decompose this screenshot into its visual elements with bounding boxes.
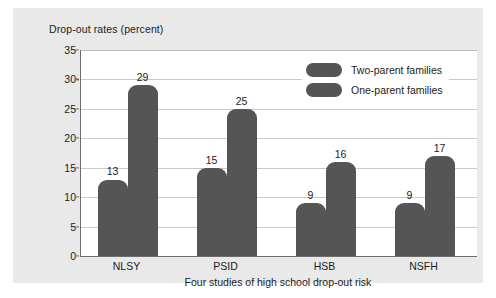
bar <box>296 203 326 256</box>
figure-card: Drop-out rates (percent) 05101520253035 … <box>13 8 483 283</box>
y-tick-label: 15 <box>50 162 76 174</box>
bar-value-label: 15 <box>206 154 218 166</box>
legend-label-two-parent: Two-parent families <box>351 64 442 76</box>
bar <box>128 85 158 256</box>
y-tick-label: 0 <box>50 250 76 262</box>
y-tick-label: 10 <box>50 191 76 203</box>
x-category-label: NLSY <box>113 260 140 272</box>
gridline <box>81 50 477 51</box>
y-tick-mark <box>75 226 79 227</box>
chart-legend: Two-parent families One-parent families <box>302 57 449 104</box>
y-tick-label: 35 <box>50 44 76 56</box>
bar-value-label: 13 <box>107 165 119 177</box>
y-tick-mark <box>75 167 79 168</box>
x-category-label: NSFH <box>409 260 438 272</box>
legend-swatch-two-parent-icon <box>306 63 342 77</box>
bar-value-label: 16 <box>335 148 347 160</box>
y-tick-mark <box>75 197 79 198</box>
bar <box>197 168 227 256</box>
plot-area: 13291525916917 Two-parent families One-p… <box>80 50 477 257</box>
y-tick-label: 30 <box>50 73 76 85</box>
bar <box>395 203 425 256</box>
x-category-label: HSB <box>314 260 336 272</box>
bar <box>425 156 455 256</box>
y-tick-mark <box>75 49 79 50</box>
y-axis-title: Drop-out rates (percent) <box>49 23 163 35</box>
bar-value-label: 9 <box>308 189 314 201</box>
bar <box>227 109 257 256</box>
y-tick-label: 25 <box>50 103 76 115</box>
legend-item: One-parent families <box>306 80 443 100</box>
legend-label-one-parent: One-parent families <box>351 84 443 96</box>
y-tick-label: 20 <box>50 132 76 144</box>
y-tick-mark <box>75 79 79 80</box>
legend-item: Two-parent families <box>306 60 443 80</box>
bar-value-label: 25 <box>236 95 248 107</box>
y-tick-mark <box>75 255 79 256</box>
legend-swatch-one-parent-icon <box>306 83 342 97</box>
bar-value-label: 17 <box>434 142 446 154</box>
y-tick-mark <box>75 138 79 139</box>
x-axis-title: Four studies of high school drop-out ris… <box>80 276 476 288</box>
bar <box>98 180 128 257</box>
x-category-label: PSID <box>213 260 238 272</box>
bar <box>326 162 356 256</box>
bar-value-label: 9 <box>407 189 413 201</box>
y-tick-label: 5 <box>50 221 76 233</box>
y-axis-ticks: 05101520253035 <box>46 50 76 256</box>
y-tick-mark <box>75 108 79 109</box>
bar-value-label: 29 <box>137 71 149 83</box>
